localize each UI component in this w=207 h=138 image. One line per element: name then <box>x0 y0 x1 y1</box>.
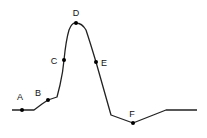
point-e-label: E <box>101 58 107 68</box>
point-d-dot <box>74 21 78 25</box>
point-d-label: D <box>73 8 80 18</box>
point-a-dot <box>20 108 24 112</box>
point-f-label: F <box>129 109 135 119</box>
point-b-label: B <box>35 88 41 98</box>
point-f-dot <box>131 121 135 125</box>
point-a-label: A <box>17 92 23 102</box>
point-b: B <box>35 88 50 102</box>
point-c-dot <box>62 58 66 62</box>
point-c-label: C <box>51 56 58 66</box>
action-potential-diagram: A B C D E F <box>0 0 207 138</box>
point-b-dot <box>46 98 50 102</box>
point-e: E <box>94 58 107 68</box>
point-d: D <box>73 8 80 25</box>
point-e-dot <box>94 60 98 64</box>
point-a: A <box>17 92 24 112</box>
action-potential-curve <box>12 23 197 123</box>
